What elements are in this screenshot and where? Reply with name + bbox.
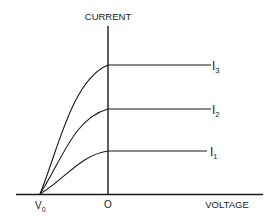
label-i3: I3 bbox=[212, 59, 220, 75]
curve-i1 bbox=[40, 151, 108, 194]
x-axis-label: VOLTAGE bbox=[205, 199, 248, 210]
iv-diagram: CURRENT VOLTAGE V0 O I3 I2 I1 bbox=[0, 0, 274, 222]
curve-i3 bbox=[40, 65, 108, 194]
tick-v0: V0 bbox=[35, 200, 46, 213]
tick-origin: O bbox=[104, 199, 112, 210]
label-i2: I2 bbox=[212, 103, 220, 119]
curve-i2 bbox=[40, 109, 108, 194]
y-axis-label: CURRENT bbox=[85, 11, 132, 22]
label-i1: I1 bbox=[210, 145, 218, 161]
